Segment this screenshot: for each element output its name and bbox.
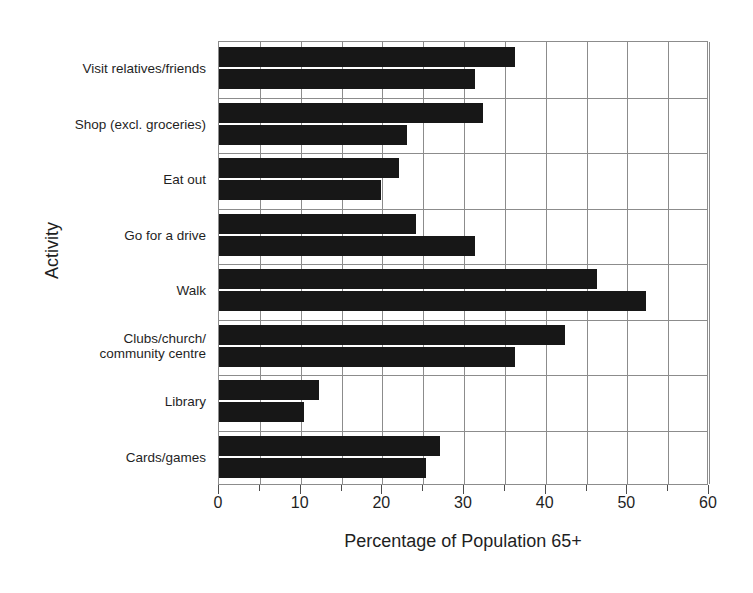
x-axis-title: Percentage of Population 65+ <box>218 531 708 552</box>
bar <box>219 47 515 67</box>
y-axis-tick-label: Go for a drive <box>10 228 206 243</box>
bar-group <box>219 264 707 320</box>
y-axis-tick-label: Cards/games <box>10 450 206 465</box>
bar-group <box>219 375 707 431</box>
bar <box>219 158 399 178</box>
x-axis-tick-label: 50 <box>596 494 656 512</box>
plot-area <box>218 41 708 485</box>
x-axis-tick-major <box>463 485 464 494</box>
x-axis-tick-label: 10 <box>270 494 330 512</box>
x-axis-tick-minor <box>422 485 423 491</box>
bar <box>219 103 483 123</box>
bar <box>219 236 475 256</box>
bar <box>219 458 426 478</box>
bar <box>219 402 304 422</box>
bar-group <box>219 431 707 487</box>
horizontal-bar-chart: Activity Percentage of Population 65+ Vi… <box>0 0 753 593</box>
bar <box>219 347 515 367</box>
x-axis-tick-minor <box>586 485 587 491</box>
y-axis-tick-label: Shop (excl. groceries) <box>10 117 206 132</box>
x-axis-tick-label: 40 <box>515 494 575 512</box>
y-axis-tick-label: Eat out <box>10 172 206 187</box>
bar <box>219 269 597 289</box>
x-axis-tick-major <box>708 485 709 494</box>
bar <box>219 380 319 400</box>
bar-group <box>219 153 707 209</box>
x-axis-tick-label: 30 <box>433 494 493 512</box>
bar <box>219 180 381 200</box>
bar <box>219 325 565 345</box>
x-axis-tick-label: 20 <box>351 494 411 512</box>
x-axis-tick-major <box>218 485 219 494</box>
y-axis-tick-label: Library <box>10 394 206 409</box>
y-axis-tick-label: Walk <box>10 283 206 298</box>
bar <box>219 125 407 145</box>
bar-group <box>219 209 707 265</box>
bar-group <box>219 42 707 98</box>
x-axis-tick-major <box>381 485 382 494</box>
gridline-vertical <box>709 42 710 484</box>
x-axis-tick-label: 0 <box>188 494 248 512</box>
y-axis-tick-label: Clubs/church/ community centre <box>10 331 206 361</box>
bar <box>219 214 416 234</box>
x-axis-tick-label: 60 <box>678 494 738 512</box>
x-axis-tick-minor <box>667 485 668 491</box>
x-axis-tick-minor <box>341 485 342 491</box>
x-axis-tick-major <box>300 485 301 494</box>
bar <box>219 69 475 89</box>
bar <box>219 291 646 311</box>
bar <box>219 436 440 456</box>
y-axis-tick-label: Visit relatives/friends <box>10 61 206 76</box>
x-axis-tick-minor <box>504 485 505 491</box>
bar-group <box>219 320 707 376</box>
x-axis-tick-major <box>545 485 546 494</box>
x-axis-tick-major <box>626 485 627 494</box>
bar-group <box>219 98 707 154</box>
x-axis-tick-minor <box>259 485 260 491</box>
